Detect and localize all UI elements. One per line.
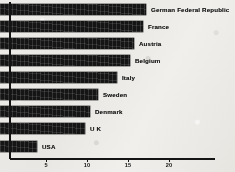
bar-row: France xyxy=(0,21,169,32)
bar-row: Belgium xyxy=(0,55,160,66)
bar-row: Italy xyxy=(0,72,135,83)
bar-row: German Federal Republic xyxy=(0,4,229,15)
bar-chart: German Federal Republic France Austria B… xyxy=(0,0,235,172)
bar-row: Austria xyxy=(0,38,161,49)
bar-usa xyxy=(0,141,37,152)
bar-austria xyxy=(0,38,134,49)
bar-belgium xyxy=(0,55,130,66)
bar-label: USA xyxy=(42,143,56,150)
bar-row: Denmark xyxy=(0,106,123,117)
bar-row: USA xyxy=(0,141,56,152)
bar-denmark xyxy=(0,106,90,117)
bar-label: Italy xyxy=(122,74,135,81)
plot-area: German Federal Republic France Austria B… xyxy=(0,0,235,172)
x-tick-label: 20 xyxy=(166,162,172,168)
x-tick-label: 5 xyxy=(44,162,47,168)
bar-row: Sweden xyxy=(0,89,127,100)
x-tick-label: 15 xyxy=(125,162,131,168)
bar-label: U K xyxy=(90,125,101,132)
bar-uk xyxy=(0,123,85,134)
bar-label: Sweden xyxy=(103,91,127,98)
bar-label: France xyxy=(148,23,169,30)
bar-sweden xyxy=(0,89,98,100)
bar-france xyxy=(0,21,143,32)
bar-label: Belgium xyxy=(135,57,160,64)
bar-german-federal-republic xyxy=(0,4,146,15)
x-tick-label: 10 xyxy=(84,162,90,168)
bar-row: U K xyxy=(0,123,101,134)
bar-label: Denmark xyxy=(95,108,123,115)
y-axis-line xyxy=(9,2,11,159)
x-axis-line xyxy=(10,158,215,160)
bar-italy xyxy=(0,72,117,83)
bar-label: German Federal Republic xyxy=(151,6,229,13)
bar-label: Austria xyxy=(139,40,161,47)
